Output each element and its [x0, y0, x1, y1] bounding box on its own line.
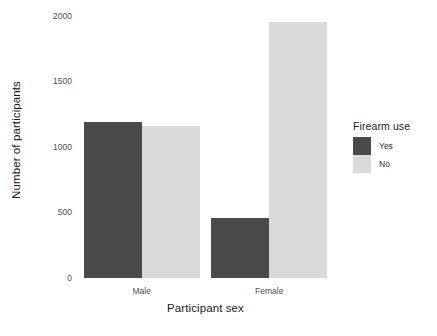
bar [84, 122, 142, 278]
y-axis-title-text: Number of participants [10, 81, 22, 199]
y-axis-tick-label: 2000 [28, 12, 72, 21]
x-axis-tick-label: Male [133, 286, 151, 296]
y-axis-tick-label: 0 [28, 274, 72, 283]
legend-swatch [353, 155, 371, 173]
legend-entry: No [353, 155, 437, 173]
legend: Firearm use YesNo [353, 120, 437, 173]
plot-panel [78, 8, 333, 278]
y-axis-tick-labels: 0500100015002000 [28, 0, 72, 336]
y-axis-tick-label: 500 [28, 208, 72, 217]
bar [269, 22, 327, 278]
bar [211, 218, 269, 278]
bar-chart-figure: Number of participants 0500100015002000 … [0, 0, 437, 336]
y-axis-title: Number of participants [6, 0, 26, 280]
legend-label: Yes [379, 141, 393, 151]
y-axis-tick-label: 1500 [28, 77, 72, 86]
bar [142, 126, 200, 278]
legend-label: No [379, 159, 390, 169]
legend-entry: Yes [353, 137, 437, 155]
legend-entries: YesNo [353, 137, 437, 173]
x-axis-title: Participant sex [78, 302, 333, 314]
legend-title: Firearm use [353, 120, 437, 132]
legend-swatch [353, 137, 371, 155]
x-axis-tick-label: Female [255, 286, 283, 296]
y-axis-tick-label: 1000 [28, 143, 72, 152]
